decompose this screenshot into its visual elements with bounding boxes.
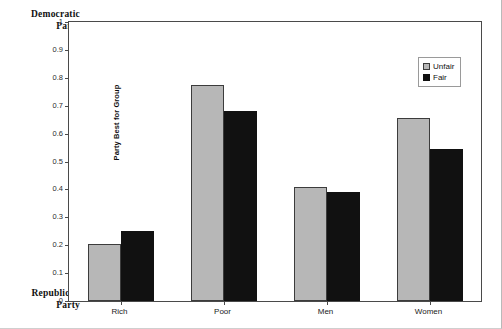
y-tick-label: 0.1 [35,268,63,277]
bar-rich-fair [121,231,154,301]
y-tick-mark [65,301,69,302]
y-tick-label: 0.6 [35,129,63,138]
x-tick-mark [224,301,225,305]
y-tick-mark [65,189,69,190]
y-tick-mark [65,245,69,246]
bar-men-fair [327,192,360,301]
x-axis-label-poor: Poor [188,307,258,316]
x-tick-mark [430,301,431,305]
y-tick-mark [65,162,69,163]
y-tick-mark [65,106,69,107]
y-tick-mark [65,22,69,23]
legend-label-fair: Fair [433,73,447,82]
y-tick-label: 0 [35,296,63,305]
x-axis-label-men: Men [291,307,361,316]
y-tick-label: 0.4 [35,184,63,193]
x-axis-label-rich: Rich [85,307,155,316]
bar-women-unfair [397,118,430,301]
legend-item-fair: Fair [423,72,454,83]
y-tick-label: 1 [35,17,63,26]
legend-item-unfair: Unfair [423,61,454,72]
x-tick-mark [327,301,328,305]
y-tick-label: 0.8 [35,73,63,82]
bar-chart-figure: Democratic Party Republican Party Party … [0,0,502,329]
y-tick-label: 0.2 [35,240,63,249]
y-axis-title: Party Best for Group [112,58,121,188]
y-tick-mark [65,217,69,218]
y-tick-mark [65,273,69,274]
y-tick-label: 0.7 [35,101,63,110]
y-tick-mark [65,78,69,79]
x-axis-label-women: Women [394,307,464,316]
y-tick-mark [65,50,69,51]
bar-poor-unfair [191,85,224,301]
chart-legend: Unfair Fair [418,57,461,87]
y-tick-label: 0.9 [35,45,63,54]
y-tick-label: 0.3 [35,212,63,221]
unfair-swatch-icon [423,63,430,70]
x-tick-mark [121,301,122,305]
legend-label-unfair: Unfair [433,62,454,71]
bar-rich-unfair [88,244,121,301]
bar-men-unfair [294,187,327,301]
fair-swatch-icon [423,74,430,81]
y-tick-mark [65,134,69,135]
bar-poor-fair [224,111,257,301]
bar-women-fair [430,149,463,301]
y-tick-label: 0.5 [35,157,63,166]
plot-area: Party Best for Group 00.10.20.30.40.50.6… [68,21,482,302]
